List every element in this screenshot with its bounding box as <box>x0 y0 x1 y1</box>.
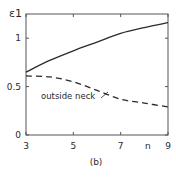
axes-frame <box>26 14 168 135</box>
x-tick-label: 3 <box>23 141 29 151</box>
curve-annotation: outside neck <box>41 91 95 101</box>
figure-caption: (b) <box>90 157 103 167</box>
chart-figure: 357900.51 ε1 n (b) outside neck <box>0 0 176 179</box>
x-tick-label: 7 <box>118 141 124 151</box>
y-tick-label: 1 <box>15 33 21 43</box>
solid-line <box>26 23 168 72</box>
plot-area: 357900.51 <box>7 14 171 151</box>
y-tick-label: 0 <box>15 130 21 140</box>
y-axis-label: ε1 <box>9 7 22 20</box>
y-tick-label: 0.5 <box>7 82 21 92</box>
x-axis-label: n <box>145 141 151 151</box>
x-tick-label: 5 <box>70 141 76 151</box>
x-tick-label: 9 <box>165 141 171 151</box>
